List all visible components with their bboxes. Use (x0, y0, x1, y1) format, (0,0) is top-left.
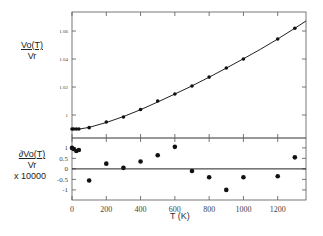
fit-curve (72, 21, 306, 129)
x-tick-label: 800 (203, 205, 215, 214)
x-tick-label: 200 (100, 205, 112, 214)
upper-data-point (139, 108, 143, 112)
residual-data-point (138, 159, 143, 164)
upper-data-point (77, 127, 81, 131)
plot-frame (72, 12, 306, 200)
lower-y-tick-label: -0.5 (57, 176, 69, 184)
upper-y-tick-label: 1 (66, 113, 69, 118)
x-tick-label: 0 (70, 205, 74, 214)
upper-y-tick-label: 1.04 (59, 57, 68, 62)
upper-y-tick-label: 1.06 (59, 29, 68, 34)
residual-data-point (121, 166, 126, 171)
residual-data-point (275, 174, 280, 179)
residual-data-point (190, 169, 195, 174)
upper-data-point (87, 126, 91, 130)
upper-data-point (242, 57, 246, 61)
residual-data-point (207, 175, 212, 180)
upper-y-tick-label: 1.02 (59, 85, 68, 90)
x-axis-label: T (K) (170, 211, 190, 221)
x-tick-label: 1200 (270, 205, 286, 214)
chart-canvas: 02004006008001000120011.021.041.06-1-0.5… (0, 0, 323, 236)
x-tick-label: 1000 (235, 205, 251, 214)
residual-data-point (173, 145, 178, 150)
upper-data-point (190, 84, 194, 88)
x-tick-label: 400 (135, 205, 147, 214)
residual-data-point (155, 153, 160, 158)
upper-data-point (207, 75, 211, 79)
lower-y-tick-label: 0 (65, 165, 69, 173)
residual-data-point (224, 188, 229, 193)
upper-data-point (276, 37, 280, 41)
lower-y-tick-label: 0.5 (59, 155, 68, 163)
upper-data-point (122, 115, 126, 119)
residual-data-point (241, 175, 246, 180)
upper-data-point (173, 92, 177, 96)
lower-y-tick-label: 1 (65, 144, 69, 152)
upper-data-point (224, 66, 228, 70)
residual-data-point (87, 178, 92, 183)
residual-data-point (77, 148, 82, 153)
residual-data-point (293, 155, 298, 160)
upper-data-point (156, 99, 160, 103)
lower-y-tick-label: -1 (62, 186, 68, 194)
residual-data-point (104, 161, 109, 166)
upper-data-point (104, 120, 108, 124)
upper-data-point (293, 26, 297, 30)
